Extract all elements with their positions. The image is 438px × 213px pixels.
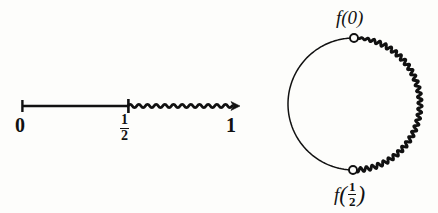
circle-diagram <box>288 34 422 174</box>
paren-open: ( <box>339 183 347 206</box>
fraction-denominator: 2 <box>120 129 129 144</box>
interval-label-zero: 0 <box>15 115 25 135</box>
marker-f-of-zero <box>350 34 358 42</box>
math-figure: 0 1 2 1 f(0) f ( 1 2 ) <box>0 0 438 213</box>
circle-label-f-of-zero: f(0) <box>336 8 363 27</box>
fraction-one-half: 1 2 <box>120 113 129 143</box>
fraction-one-half: 1 2 <box>348 180 357 208</box>
marker-f-of-one-half <box>349 166 357 174</box>
circle-wavy-arc <box>353 38 422 172</box>
circle-smooth-arc <box>288 38 354 170</box>
fraction-denominator: 2 <box>348 195 357 209</box>
fraction-numerator: 1 <box>120 113 129 129</box>
interval-diagram <box>22 99 240 113</box>
figure-canvas <box>0 0 438 213</box>
fraction-numerator: 1 <box>348 180 357 195</box>
circle-label-f-of-one-half: f ( 1 2 ) <box>334 180 365 208</box>
interval-label-one-half: 1 2 <box>120 113 129 143</box>
interval-label-one: 1 <box>226 115 236 135</box>
paren-close: ) <box>357 183 365 206</box>
interval-wavy-segment <box>128 104 232 107</box>
